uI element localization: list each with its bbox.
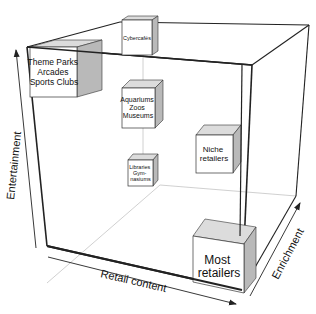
box-cybercafes: Cybercafés [122,16,158,55]
entertainment-axis-label: Entertainment [4,131,23,200]
positioning-cube-diagram: Entertainment Retail content Enrichment … [0,0,316,314]
box-niche-retailers: Niche retailers [196,125,241,173]
enrichment-axis-label: Enrichment [269,226,306,281]
box-aquariums: Aquariums Zoos Museums [120,80,163,128]
box-libraries: Libraries Gym- nasiums [128,154,158,186]
svg-text:Niche retailers: Niche retailers [200,145,228,163]
svg-text:Cybercafés: Cybercafés [123,35,151,41]
